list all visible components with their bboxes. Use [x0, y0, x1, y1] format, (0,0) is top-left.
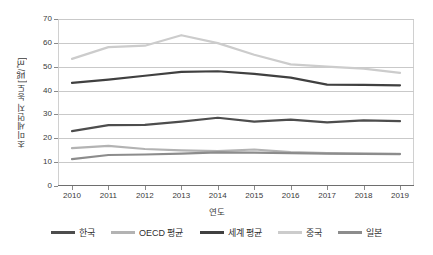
legend-label: 세계 평균 [228, 226, 263, 239]
series-line [72, 71, 400, 85]
x-tick-mark [218, 186, 219, 190]
y-tick-mark [54, 114, 58, 115]
x-tick-label: 2013 [164, 191, 198, 200]
x-tick-mark [291, 186, 292, 190]
y-tick-mark [54, 138, 58, 139]
legend-item[interactable]: 세계 평균 [200, 226, 263, 239]
y-tick-label: 30 [26, 109, 52, 118]
legend-item[interactable]: OECD 평균 [111, 226, 184, 239]
x-tick-label: 2014 [201, 191, 235, 200]
y-tick-mark [54, 162, 58, 163]
x-tick-label: 2011 [91, 191, 125, 200]
y-tick-label: 70 [26, 14, 52, 23]
legend-label: OECD 평균 [139, 226, 184, 239]
chart-legend: 한국OECD 평균세계 평균중국일본 [0, 226, 433, 239]
x-tick-mark [72, 186, 73, 190]
x-tick-label: 2019 [383, 191, 417, 200]
legend-label: 한국 [79, 226, 95, 239]
y-tick-label: 20 [26, 133, 52, 142]
y-tick-label: 10 [26, 157, 52, 166]
series-line [72, 152, 400, 159]
legend-item[interactable]: 일본 [338, 226, 382, 239]
legend-line-icon [51, 231, 75, 234]
legend-line-icon [338, 231, 362, 234]
y-tick-label: 60 [26, 38, 52, 47]
x-tick-mark [145, 186, 146, 190]
x-tick-label: 2018 [347, 191, 381, 200]
x-tick-mark [108, 186, 109, 190]
y-tick-mark [54, 43, 58, 44]
x-tick-label: 2016 [274, 191, 308, 200]
y-tick-mark [54, 186, 58, 187]
series-lines [58, 19, 414, 186]
x-tick-mark [254, 186, 255, 190]
y-tick-label: 0 [26, 181, 52, 190]
legend-item[interactable]: 중국 [278, 226, 322, 239]
x-tick-mark [400, 186, 401, 190]
legend-line-icon [200, 231, 224, 234]
legend-item[interactable]: 한국 [51, 226, 95, 239]
x-tick-mark [364, 186, 365, 190]
y-tick-label: 40 [26, 86, 52, 95]
y-tick-mark [54, 19, 58, 20]
series-line [72, 35, 400, 73]
x-axis-title: 연도 [0, 205, 433, 217]
legend-label: 일본 [366, 226, 382, 239]
x-tick-label: 2012 [128, 191, 162, 200]
x-tick-label: 2017 [310, 191, 344, 200]
x-tick-mark [181, 186, 182, 190]
y-tick-mark [54, 91, 58, 92]
x-tick-label: 2010 [55, 191, 89, 200]
chart-container: 초미세먼지 농도[㎍/㎥] 010203040506070 2010201120… [0, 0, 433, 255]
plot-area [58, 19, 414, 186]
legend-line-icon [278, 231, 302, 234]
x-tick-label: 2015 [237, 191, 271, 200]
x-tick-mark [327, 186, 328, 190]
series-line [72, 118, 400, 131]
y-tick-label: 50 [26, 62, 52, 71]
legend-line-icon [111, 231, 135, 234]
legend-label: 중국 [306, 226, 322, 239]
y-axis-title: 초미세먼지 농도[㎍/㎥] [14, 38, 30, 168]
y-tick-mark [54, 67, 58, 68]
